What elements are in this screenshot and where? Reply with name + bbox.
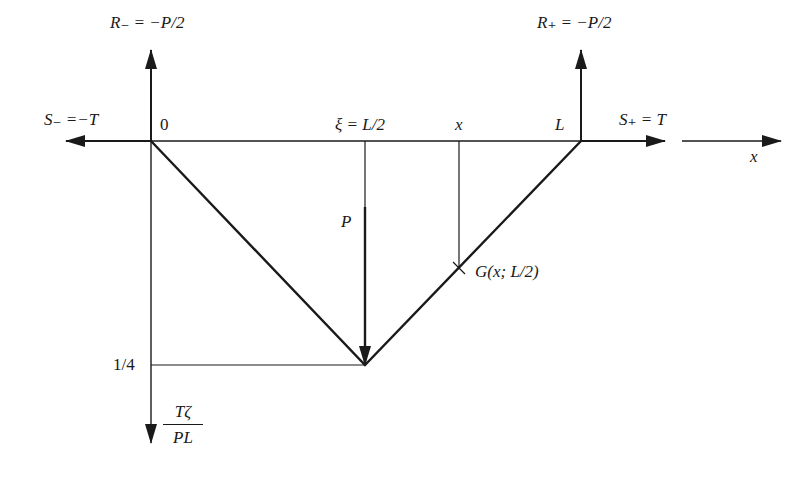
origin-label: 0 — [160, 116, 169, 133]
L-label: L — [555, 116, 564, 133]
r-plus-label: R₊ = −P/2 — [537, 14, 611, 31]
x-axis-label: x — [750, 148, 758, 165]
deflection-axis-numerator: Tζ — [163, 402, 203, 425]
load-p-label: P — [341, 213, 351, 230]
green-function-string-diagram: R₋ = −P/2 R₊ = −P/2 S₋ =−T S₊ = T 0 ξ = … — [0, 0, 812, 480]
s-plus-label: S₊ = T — [619, 111, 666, 128]
xi-label: ξ = L/2 — [335, 116, 385, 133]
deflection-axis-denominator: PL — [163, 425, 203, 448]
diagram-canvas — [0, 0, 812, 480]
quarter-label: 1/4 — [113, 356, 135, 373]
r-minus-label: R₋ = −P/2 — [110, 14, 184, 31]
green-function-label: G(x; L/2) — [475, 263, 539, 280]
deflection-axis-label: Tζ PL — [163, 402, 203, 448]
s-minus-label: S₋ =−T — [44, 111, 98, 128]
x-position-label: x — [455, 116, 463, 133]
